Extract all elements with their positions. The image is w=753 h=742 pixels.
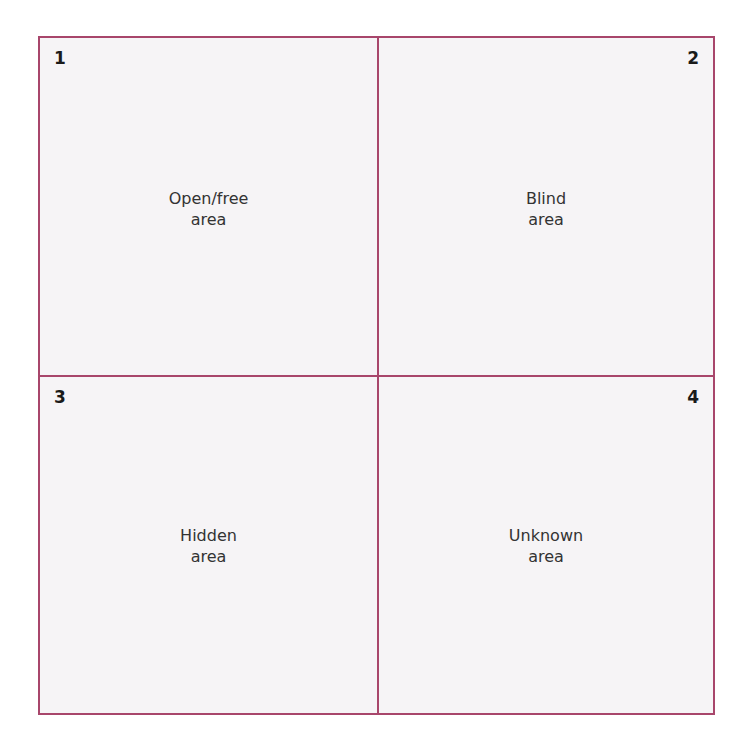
label-line: Unknown <box>379 525 713 546</box>
label-line: area <box>379 546 713 567</box>
quadrant-number: 1 <box>54 48 66 68</box>
label-line: area <box>40 546 377 567</box>
quadrant-label: Unknown area <box>379 525 713 567</box>
johari-window-grid: 1 Open/free area 2 Blind area 3 Hidden a… <box>38 36 715 715</box>
quadrant-number: 3 <box>54 387 66 407</box>
label-line: Open/free <box>40 188 377 209</box>
quadrant-hidden-area: 3 Hidden area <box>40 377 377 713</box>
quadrant-label: Open/free area <box>40 188 377 230</box>
quadrant-blind-area: 2 Blind area <box>379 38 713 375</box>
quadrant-label: Hidden area <box>40 525 377 567</box>
quadrant-label: Blind area <box>379 188 713 230</box>
quadrant-number: 2 <box>687 48 699 68</box>
label-line: area <box>40 209 377 230</box>
quadrant-unknown-area: 4 Unknown area <box>379 377 713 713</box>
label-line: Hidden <box>40 525 377 546</box>
quadrant-number: 4 <box>687 387 699 407</box>
quadrant-open-area: 1 Open/free area <box>40 38 377 375</box>
label-line: Blind <box>379 188 713 209</box>
horizontal-divider <box>40 375 713 377</box>
label-line: area <box>379 209 713 230</box>
